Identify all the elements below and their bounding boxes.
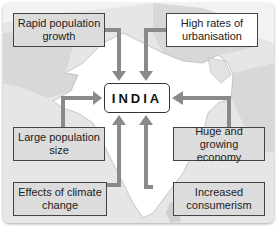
diagram-panel: Rapid populationgrowth High rates ofurba… xyxy=(3,3,274,223)
factor-box-increased-consumerism: Increasedconsumerism xyxy=(173,182,265,216)
factor-box-large-population-size: Large populationsize xyxy=(13,127,105,161)
factor-label: size xyxy=(49,144,69,156)
factor-label: Increased xyxy=(195,186,243,198)
factor-label: High rates of xyxy=(181,17,243,29)
factor-label: Rapid population xyxy=(18,17,101,29)
factor-label: Large population xyxy=(18,131,100,143)
factor-label: urbanisation xyxy=(182,30,242,42)
factor-label: Effects of climate xyxy=(18,186,102,198)
factor-box-rapid-population-growth: Rapid populationgrowth xyxy=(13,13,105,47)
factor-box-high-rates-of-urbanisation: High rates ofurbanisation xyxy=(166,13,258,47)
factor-label: growth xyxy=(42,30,75,42)
factor-label: consumerism xyxy=(186,199,251,211)
factor-label: economy xyxy=(197,151,242,163)
factor-label: change xyxy=(42,199,78,211)
factor-box-effects-of-climate-change: Effects of climatechange xyxy=(13,182,107,216)
factor-box-huge-and-growing-economy: Huge and growingeconomy xyxy=(173,127,265,161)
factor-label: Huge and growing xyxy=(195,125,243,150)
india-center-label: INDIA xyxy=(104,83,170,113)
